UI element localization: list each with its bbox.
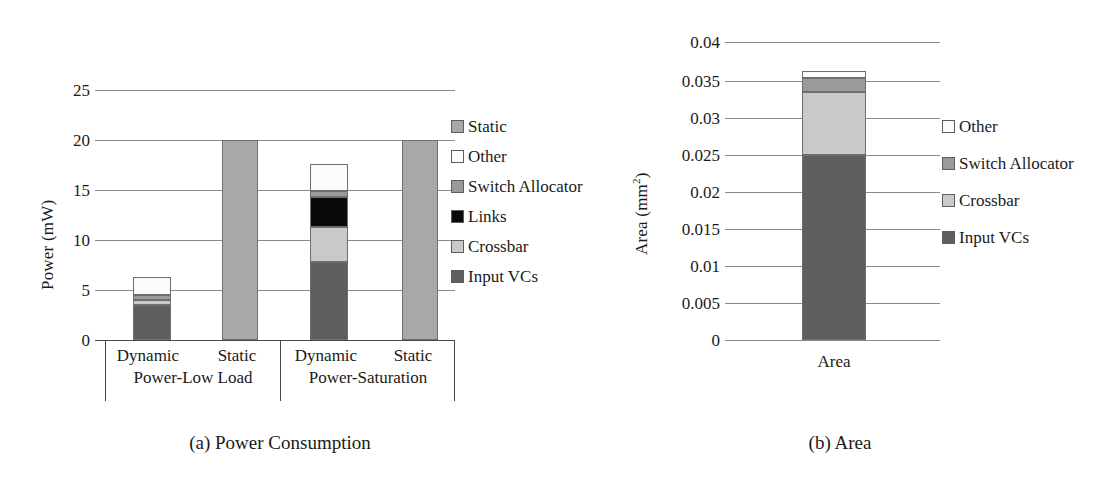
gridline-power-20 [95,140,455,141]
category-label-static-low-text: Static [218,346,257,365]
y-tick-power-10-text: 10 [73,231,90,250]
y-tick-area-004-text: 0.04 [690,33,720,52]
y-tick-area-001: 0.01 [652,258,720,275]
group-caption-low-load-text: Power-Low Load [133,368,252,387]
y-tick-power-0-text: 0 [82,331,91,350]
y-tick-power-5: 5 [54,282,90,299]
y-tick-area-002-text: 0.02 [690,183,720,202]
gridline-area-004 [725,42,940,43]
y-tick-area-003: 0.03 [652,110,720,127]
legend-label-other: Other [468,148,507,165]
panel-caption-power: (a) Power Consumption [90,432,470,454]
bar-dynamic-saturation[interactable] [310,164,348,340]
legend-swatch-crossbar-icon [942,194,955,207]
y-tick-power-20-text: 20 [73,131,90,150]
group-caption-low-load: Power-Low Load [106,367,280,388]
y-tick-area-0: 0 [652,332,720,349]
y-tick-power-0: 0 [54,332,90,349]
y-tick-power-10: 10 [54,232,90,249]
y-tick-area-002: 0.02 [652,184,720,201]
legend-label-crossbar: Crossbar [468,238,528,255]
bar-segment-switch-allocator[interactable] [802,78,866,92]
y-tick-power-15: 15 [54,182,90,199]
bar-segment-other[interactable] [310,164,348,191]
group-caption-saturation: Power-Saturation [281,367,455,388]
y-tick-area-001-text: 0.01 [690,257,720,276]
legend-swatch-input-vcs-icon [942,231,955,244]
legend-swatch-crossbar-icon [451,240,464,253]
bar-segment-input-vcs[interactable] [802,155,866,340]
y-tick-area-0-text: 0 [712,331,721,350]
y-tick-power-15-text: 15 [73,181,90,200]
category-label-box-power: Dynamic Static Dynamic Static Power-Low … [105,341,455,401]
gridline-power-15 [95,190,455,191]
legend-item-other[interactable]: Other [451,148,507,165]
bar-segment-other[interactable] [133,277,171,295]
legend-swatch-switch-allocator-icon [451,180,464,193]
category-label-dynamic-low-text: Dynamic [117,346,179,365]
bar-segment-links[interactable] [310,197,348,227]
y-tick-area-0005: 0.005 [652,295,720,312]
category-label-dynamic-sat-text: Dynamic [295,346,357,365]
panel-caption-area: (b) Area [730,432,950,454]
legend-swatch-static-icon [451,120,464,133]
y-tick-area-0035: 0.035 [652,73,720,90]
legend-swatch-switch-allocator-icon [942,157,955,170]
y-tick-area-0025: 0.025 [652,147,720,164]
bar-dynamic-low-load[interactable] [133,277,171,340]
legend-item-links[interactable]: Links [451,208,507,225]
legend-swatch-input-vcs-icon [451,270,464,283]
legend-area: Other Switch Allocator Crossbar Input VC… [942,118,1104,248]
y-tick-area-0015-text: 0.015 [682,220,720,239]
bar-area[interactable] [802,71,866,340]
figure: Power (mW) 0 5 10 15 20 25 [0,0,1104,493]
bar-segment-crossbar[interactable] [802,92,866,155]
legend-item-crossbar[interactable]: Crossbar [942,192,1019,209]
group-caption-saturation-text: Power-Saturation [309,368,428,387]
y-tick-power-20: 20 [54,132,90,149]
gridline-area-0 [725,340,940,341]
panel-caption-area-text: (b) Area [809,432,872,453]
bar-segment-static[interactable] [222,140,258,340]
category-label-static-sat-text: Static [394,346,433,365]
legend-item-input-vcs[interactable]: Input VCs [942,229,1029,246]
bar-segment-static[interactable] [402,140,438,340]
panel-power-consumption: Power (mW) 0 5 10 15 20 25 [0,0,560,493]
panel-caption-power-text: (a) Power Consumption [189,432,371,453]
category-label-dynamic-low: Dynamic [107,345,189,366]
gridline-power-25 [95,90,455,91]
y-tick-area-003-text: 0.03 [690,109,720,128]
legend-label-other: Other [959,118,998,135]
bar-segment-other[interactable] [802,71,866,78]
category-label-dynamic-sat: Dynamic [283,345,369,366]
legend-label-static: Static [468,118,507,135]
bar-segment-crossbar[interactable] [310,227,348,262]
x-axis-label-area-text: Area [817,352,850,371]
panel-area: Area (mm2) 0 0.005 0.01 0.015 0.02 0.025… [560,0,1104,493]
gridline-power-10 [95,240,455,241]
bar-segment-input-vcs[interactable] [133,305,171,340]
category-label-static-low: Static [197,345,277,366]
y-tick-area-0005-text: 0.005 [682,294,720,313]
legend-label-input-vcs: Input VCs [468,268,538,285]
y-tick-power-25-text: 25 [73,81,90,100]
bar-segment-input-vcs[interactable] [310,262,348,340]
legend-label-input-vcs: Input VCs [959,229,1029,246]
legend-item-input-vcs[interactable]: Input VCs [451,268,538,285]
legend-swatch-other-icon [451,150,464,163]
legend-label-links: Links [468,208,507,225]
legend-item-switch-allocator[interactable]: Switch Allocator [942,155,1074,172]
legend-item-other[interactable]: Other [942,118,998,135]
bar-static-saturation[interactable] [402,140,438,340]
y-tick-area-0025-text: 0.025 [682,146,720,165]
legend-label-switch-allocator: Switch Allocator [959,155,1074,172]
legend-item-crossbar[interactable]: Crossbar [451,238,528,255]
y-tick-area-004: 0.04 [652,34,720,51]
legend-swatch-other-icon [942,120,955,133]
bar-static-low-load[interactable] [222,140,258,340]
x-axis-label-area: Area [774,352,894,372]
y-tick-power-5-text: 5 [82,281,91,300]
y-tick-power-25: 25 [54,82,90,99]
legend-swatch-links-icon [451,210,464,223]
legend-item-static[interactable]: Static [451,118,507,135]
